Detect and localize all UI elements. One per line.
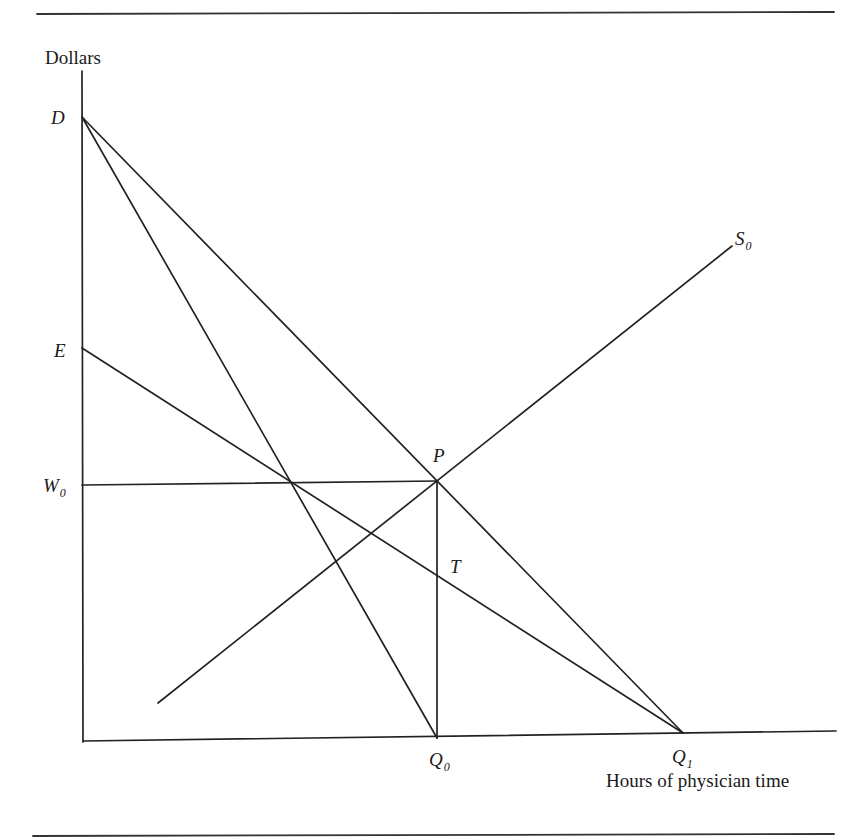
label-q1: Q1: [672, 747, 692, 766]
label-w0: W0: [43, 476, 65, 495]
label-t: T: [450, 557, 461, 576]
y-axis: [82, 71, 83, 742]
supply-curve-s0: [158, 246, 732, 703]
label-s0: S0: [735, 229, 751, 248]
demand-curve: [82, 117, 683, 733]
marginal-revenue-curve: [82, 117, 437, 738]
y-axis-label: Dollars: [45, 48, 101, 67]
wage-line-w0: [82, 481, 437, 485]
top-rule: [37, 12, 834, 14]
e-curve: [82, 348, 683, 733]
label-q0: Q0: [429, 750, 449, 769]
label-p: P: [433, 446, 445, 465]
label-e: E: [54, 341, 66, 360]
diagram-canvas: [0, 0, 866, 838]
x-axis-label: Hours of physician time: [606, 771, 789, 790]
label-d: D: [51, 108, 65, 127]
bottom-rule: [33, 834, 834, 836]
x-axis: [83, 731, 836, 741]
economics-diagram: Dollars Hours of physician time D E W0 Q…: [0, 0, 866, 838]
